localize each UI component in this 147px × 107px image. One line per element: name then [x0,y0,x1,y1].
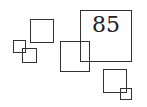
upper-left-square [30,19,54,43]
center-square [60,41,90,72]
number-label: 85 [80,12,132,38]
squares-diagram: 85 [0,0,147,107]
small-left-lower-square [22,48,37,63]
small-lower-right-square [120,88,132,100]
